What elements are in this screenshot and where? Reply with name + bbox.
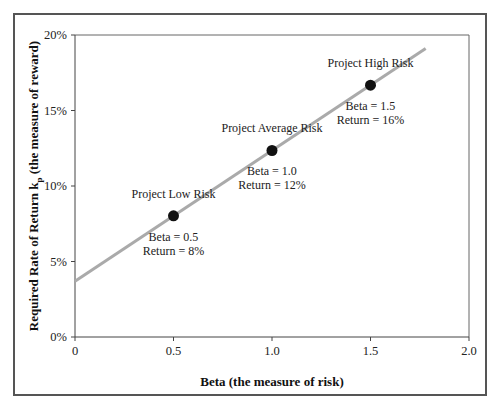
- point-beta-label: Beta = 1.5: [346, 99, 396, 113]
- point-beta-label: Beta = 1.0: [247, 164, 297, 178]
- y-tick-label: 0%: [50, 330, 67, 344]
- point-return-label: Return = 16%: [337, 113, 404, 127]
- point-name-label: Project Average Risk: [221, 121, 322, 135]
- point-beta-label: Beta = 0.5: [149, 230, 199, 244]
- point-name-label: Project Low Risk: [132, 187, 216, 201]
- x-tick-label: 1.0: [264, 344, 280, 358]
- y-tick-label: 20%: [44, 28, 67, 42]
- y-axis-title: Required Rate of Return kp (the measure …: [26, 41, 44, 331]
- x-tick-label: 1.5: [363, 344, 379, 358]
- point-name-label: Project High Risk: [328, 56, 414, 70]
- x-tick-label: 2.0: [461, 344, 477, 358]
- data-points: Project Low RiskBeta = 0.5Return = 8%Pro…: [132, 56, 414, 258]
- y-ticks: 0%5%10%15%20%: [44, 28, 75, 344]
- y-tick-label: 10%: [44, 179, 67, 193]
- y-tick-label: 5%: [50, 255, 67, 269]
- data-point: [365, 80, 376, 91]
- x-tick-label: 0: [72, 344, 78, 358]
- chart: 0%5%10%15%20% 00.51.01.52.0 Project Low …: [0, 0, 502, 409]
- x-tick-label: 0.5: [166, 344, 182, 358]
- point-return-label: Return = 8%: [143, 244, 204, 258]
- data-point: [168, 210, 179, 221]
- x-ticks: 00.51.01.52.0: [72, 337, 477, 358]
- data-point: [267, 145, 278, 156]
- point-return-label: Return = 12%: [238, 178, 305, 192]
- x-axis-title: Beta (the measure of risk): [200, 374, 343, 389]
- y-tick-label: 15%: [44, 104, 67, 118]
